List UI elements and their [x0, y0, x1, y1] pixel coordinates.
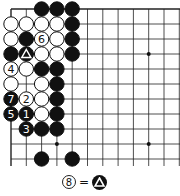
white-stone	[4, 32, 18, 46]
black-stone	[50, 62, 64, 76]
triangle-black-stone-icon	[92, 175, 107, 190]
black-stone	[65, 47, 79, 61]
white-stone	[19, 17, 33, 31]
white-stone	[34, 17, 48, 31]
black-stone	[4, 47, 18, 61]
white-stone	[34, 92, 48, 106]
move-number: 4	[8, 63, 15, 76]
go-board: 6472513	[0, 0, 180, 170]
move-legend: 8 =	[62, 173, 107, 191]
black-stone	[50, 77, 64, 91]
black-stone	[65, 2, 79, 16]
move-number: 7	[8, 93, 15, 106]
white-stone	[19, 62, 33, 76]
star-point	[55, 142, 59, 146]
white-stone	[50, 17, 64, 31]
black-stone	[50, 92, 64, 106]
star-point	[147, 142, 151, 146]
black-stone	[34, 122, 48, 136]
move-number: 2	[23, 93, 30, 106]
black-stone	[34, 152, 48, 166]
black-stone	[34, 2, 48, 16]
move-number: 5	[8, 108, 15, 121]
black-stone	[19, 32, 33, 46]
black-stone	[34, 62, 48, 76]
white-stone	[50, 47, 64, 61]
move-number: 8	[66, 177, 72, 188]
white-stone	[34, 107, 48, 121]
move-number: 3	[23, 123, 30, 136]
white-stone	[4, 17, 18, 31]
black-stone	[50, 122, 64, 136]
star-point	[147, 52, 151, 56]
white-stone	[34, 47, 48, 61]
black-stone	[50, 2, 64, 16]
black-stone	[65, 17, 79, 31]
white-stone	[50, 32, 64, 46]
white-stone	[4, 77, 18, 91]
move-number: 6	[38, 33, 45, 46]
white-stone	[34, 77, 48, 91]
black-stone	[65, 32, 79, 46]
move-8-marker: 8	[62, 175, 76, 189]
black-stone	[50, 107, 64, 121]
move-number: 1	[23, 108, 30, 121]
black-stone	[65, 152, 79, 166]
equals-sign: =	[79, 175, 89, 189]
